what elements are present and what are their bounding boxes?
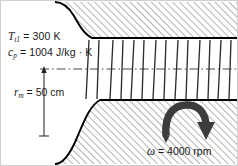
diagram-canvas (0, 0, 238, 166)
inlet-conditions-label: Tt1 = 300 K cp = 1004 J/kg · K (8, 30, 92, 61)
total-temperature-label: Tt1 = 300 K (8, 30, 92, 44)
mean-radius-label: rm = 50 cm (14, 86, 64, 100)
omega-symbol: ω (147, 145, 155, 157)
axial-compressor-diagram: Tt1 = 300 K cp = 1004 J/kg · K rm = 50 c… (0, 0, 238, 166)
specific-heat-label: cp = 1004 J/kg · K (8, 46, 92, 60)
rotation-speed-label: ω = 4000 rpm (147, 145, 211, 157)
